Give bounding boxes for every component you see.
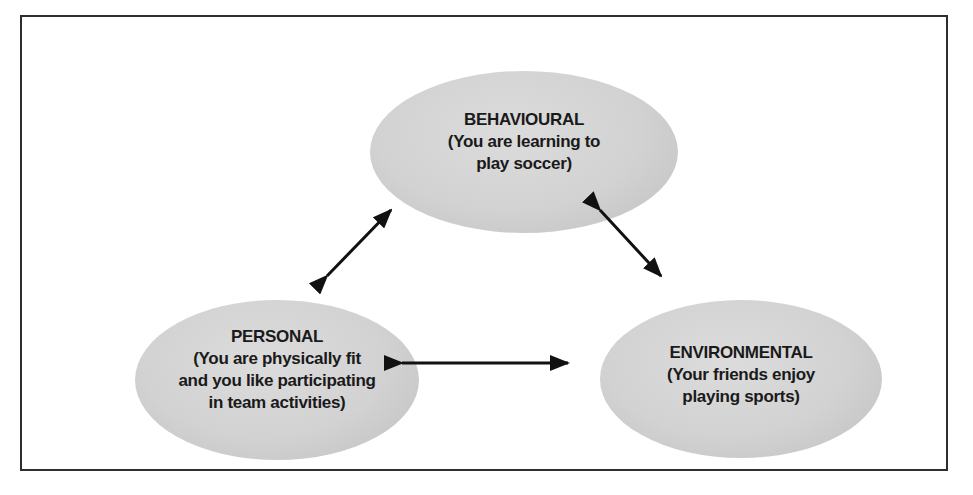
node-environmental-line: playing sports) xyxy=(682,386,799,408)
figure-border: BEHAVIOURAL (You are learning to play so… xyxy=(20,15,948,471)
node-behavioural-line: (You are learning to xyxy=(448,131,600,153)
node-personal-title: PERSONAL xyxy=(231,326,323,348)
node-personal-line: (You are physically fit xyxy=(193,348,361,370)
node-environmental-line: (Your friends enjoy xyxy=(667,364,815,386)
figure-canvas: BEHAVIOURAL (You are learning to play so… xyxy=(0,0,973,495)
node-personal-line: in team activities) xyxy=(209,392,346,414)
node-behavioural-title: BEHAVIOURAL xyxy=(464,109,584,131)
node-behavioural: BEHAVIOURAL (You are learning to play so… xyxy=(370,71,678,233)
node-personal: PERSONAL (You are physically fit and you… xyxy=(135,300,419,460)
node-personal-line: and you like participating xyxy=(178,370,375,392)
node-behavioural-line: play soccer) xyxy=(476,153,572,175)
node-environmental-title: ENVIRONMENTAL xyxy=(669,342,812,364)
node-environmental: ENVIRONMENTAL (Your friends enjoy playin… xyxy=(600,300,882,458)
